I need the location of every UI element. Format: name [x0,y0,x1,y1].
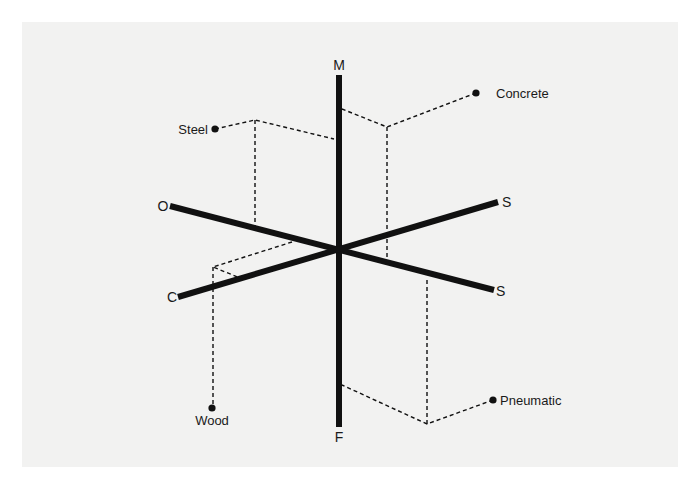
concrete-projection [342,93,476,127]
projection-lines [213,93,493,424]
steel-projection [215,120,334,139]
steel-dot-icon [211,125,218,132]
axis-label-o: O [158,198,169,214]
axes [170,75,498,427]
material-label-steel: Steel [178,122,208,137]
axis-label-f: F [335,429,344,445]
wood-dot-icon [208,404,215,411]
material-label-pneumatic: Pneumatic [500,393,562,408]
pneumatic-projection [342,385,493,424]
axis-diagram: M F O C S S Steel Concrete Wood Pneumati… [0,0,689,482]
axis-label-s-lower: S [496,283,505,299]
axis-label-s-upper: S [502,194,511,210]
material-label-concrete: Concrete [496,86,549,101]
concrete-dot-icon [472,89,479,96]
material-label-wood: Wood [195,413,229,428]
axis-label-m: M [333,57,345,73]
pneumatic-dot-icon [489,396,496,403]
axis-label-c: C [167,289,177,305]
